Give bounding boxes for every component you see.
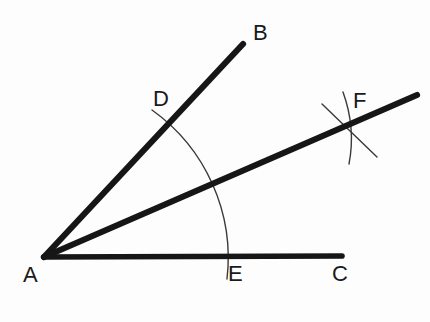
figure-background [0,0,430,322]
figure-canvas [0,0,430,322]
point-label-a: A [23,264,38,286]
point-label-c: C [332,263,348,285]
point-label-d: D [153,88,169,110]
point-label-e: E [228,263,243,285]
ray-ac [44,256,342,257]
point-label-f: F [353,90,367,112]
point-label-b: B [253,22,268,44]
geometry-figure: A B C D E F [0,0,430,322]
